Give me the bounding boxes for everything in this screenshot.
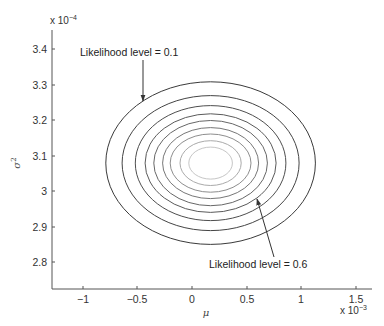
y-axis-label-exp: 2 <box>10 157 18 161</box>
y-axis-multiplier: x 10−4 <box>50 14 77 26</box>
x-tick-label: 0.5 <box>240 293 255 305</box>
contour-level-0-5 <box>154 121 268 206</box>
annotation-arrow-bottom <box>257 199 274 257</box>
y-multiplier-exponent: −4 <box>69 14 77 21</box>
y-tick-label: 3.3 <box>32 79 47 91</box>
contour-level-0-1 <box>106 82 316 245</box>
y-tick-label: 3.1 <box>32 150 47 162</box>
y-tick-label: 3 <box>41 185 47 197</box>
x-tick-label: 1 <box>298 293 304 305</box>
y-tick-label: 3.4 <box>32 43 47 55</box>
contour-level-0-6 <box>163 128 259 199</box>
contour-level-0-4 <box>145 114 276 213</box>
y-axis-label: σ2 <box>10 157 22 168</box>
x-multiplier-exponent: −3 <box>359 304 367 311</box>
annotation-level-0-6: Likelihood level = 0.6 <box>209 258 308 270</box>
likelihood-contour-chart: 3.4 3.3 3.2 3.1 3 2.9 2.8 −1 −0.5 0 0.5 … <box>0 0 384 326</box>
contour-level-0-7 <box>170 134 251 192</box>
contour-level-0-2 <box>122 96 299 231</box>
contour-ellipses <box>106 82 316 245</box>
x-axis-label: μ <box>203 307 210 318</box>
y-tick-label: 2.8 <box>32 256 47 268</box>
contour-level-0-3 <box>135 106 286 221</box>
y-tick-label: 3.2 <box>32 114 47 126</box>
x-axis-multiplier: x 10−3 <box>340 304 367 316</box>
x-tick-label: 0 <box>189 293 195 305</box>
x-multiplier-base: x 10 <box>340 305 359 316</box>
y-multiplier-base: x 10 <box>50 15 69 26</box>
annotation-level-0-1: Likelihood level = 0.1 <box>80 46 179 58</box>
x-tick-label: −1 <box>77 293 89 305</box>
x-tick-label: −0.5 <box>127 293 148 305</box>
contour-level-0-9 <box>189 147 233 179</box>
y-tick-label: 2.9 <box>32 221 47 233</box>
axes <box>52 30 372 289</box>
